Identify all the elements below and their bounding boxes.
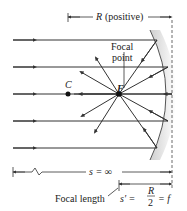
focal-point-label-1: Focal xyxy=(111,42,133,52)
concave-mirror-diagram: R (positive) Focal point F C s = ∞ Focal… xyxy=(0,0,187,211)
image-distance-suffix: = f xyxy=(158,194,170,204)
fraction-denominator: 2 xyxy=(148,198,153,208)
center-of-curvature-point xyxy=(66,92,71,97)
focal-point-label-2: point xyxy=(112,53,133,63)
focal-length-label: Focal length xyxy=(55,194,105,204)
object-distance-label: s = ∞ xyxy=(89,167,112,177)
radius-note: (positive) xyxy=(105,12,143,22)
radius-label: R xyxy=(96,12,102,22)
fraction-numerator: R xyxy=(148,186,154,196)
focal-point-symbol: F xyxy=(117,84,124,94)
image-distance-prefix: s′ = xyxy=(120,194,135,204)
center-symbol: C xyxy=(65,80,72,90)
ray-diagram xyxy=(0,0,187,211)
